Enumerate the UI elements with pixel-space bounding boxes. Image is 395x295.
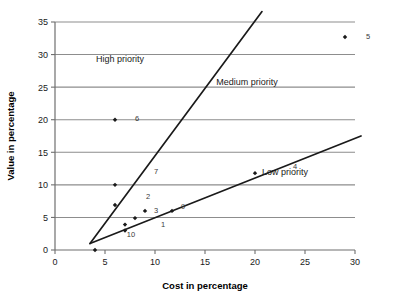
point-label-2: 2 [146, 192, 150, 201]
x-tick-label-15: 15 [200, 257, 210, 267]
point-label-7: 7 [154, 167, 158, 176]
x-axis-title: Cost in percentage [162, 280, 248, 291]
y-axis-title: Value in percentage [5, 91, 16, 180]
x-tick-label-0: 0 [52, 257, 57, 267]
point-label-10: 10 [127, 230, 135, 239]
x-tick-label-5: 5 [102, 257, 107, 267]
region-label-medium-priority: Medium priority [216, 77, 278, 87]
point-label-5: 5 [366, 32, 370, 41]
chart-canvas: 051015202530 05101520253035 5672391104 H… [0, 0, 395, 295]
y-tick-label-5: 5 [43, 213, 48, 223]
priority-scatter-chart: 051015202530 05101520253035 5672391104 H… [0, 0, 395, 295]
x-tick-label-30: 30 [350, 257, 360, 267]
region-label-low-priority: Low priority [262, 167, 309, 177]
region-label-high-priority: High priority [96, 54, 145, 64]
y-tick-label-0: 0 [43, 245, 48, 255]
x-tick-label-10: 10 [150, 257, 160, 267]
y-tick-label-25: 25 [38, 83, 48, 93]
y-tick-label-20: 20 [38, 115, 48, 125]
x-tick-label-20: 20 [250, 257, 260, 267]
y-tick-label-10: 10 [38, 180, 48, 190]
chart-background [0, 0, 395, 295]
point-label-1: 1 [161, 220, 165, 229]
point-label-3: 3 [154, 206, 158, 215]
point-label-9: 9 [181, 202, 185, 211]
y-tick-label-15: 15 [38, 148, 48, 158]
x-tick-label-25: 25 [300, 257, 310, 267]
y-tick-label-35: 35 [38, 17, 48, 27]
point-label-6: 6 [135, 114, 139, 123]
y-tick-label-30: 30 [38, 50, 48, 60]
